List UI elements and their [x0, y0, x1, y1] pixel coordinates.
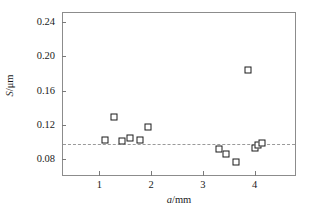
x-axis-ticks: 1234 [0, 0, 309, 218]
y-axis-title-unit: /μm [4, 75, 15, 92]
y-axis-title-symbol: S [4, 91, 15, 96]
x-axis-title-unit: /mm [172, 194, 191, 205]
y-axis-title: S/μm [4, 56, 15, 116]
x-tick-mark [203, 171, 204, 176]
scatter-chart-figure: 0.080.120.160.200.24 1234 a/mm S/μm [0, 0, 309, 218]
x-tick-label: 4 [252, 180, 257, 191]
x-tick-label: 3 [200, 180, 205, 191]
x-tick-mark [99, 171, 100, 176]
x-axis-title: a/mm [62, 194, 296, 205]
x-tick-mark [255, 171, 256, 176]
x-tick-label: 1 [97, 180, 102, 191]
x-tick-label: 2 [148, 180, 153, 191]
x-tick-mark [151, 171, 152, 176]
